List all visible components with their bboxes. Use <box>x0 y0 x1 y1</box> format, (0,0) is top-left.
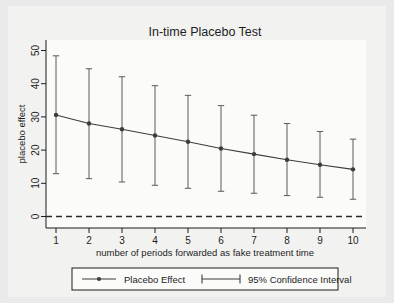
x-tick-label-5: 5 <box>185 235 191 246</box>
x-axis-ticks <box>56 228 353 233</box>
data-point-marker <box>153 133 157 137</box>
x-axis-tick-labels: 1 2 3 4 5 6 7 8 9 10 <box>53 235 359 246</box>
y-axis-tick-labels: 0 10 20 30 40 50 <box>30 45 41 220</box>
x-tick-label-3: 3 <box>119 235 125 246</box>
x-tick-label-1: 1 <box>53 235 59 246</box>
legend-label-confidence-interval: 95% Confidence Interval <box>248 274 352 285</box>
chart-screenshot: In-time Placebo Test 0 10 20 30 40 50 pl… <box>0 0 394 303</box>
y-axis-title: placebo effect <box>16 104 27 163</box>
data-point-marker <box>285 158 289 162</box>
y-tick-label-30: 30 <box>30 111 41 123</box>
data-point-marker <box>219 146 223 150</box>
x-axis-title: number of periods forwarded as fake trea… <box>96 247 314 258</box>
data-point-marker <box>54 113 58 117</box>
y-tick-label-10: 10 <box>30 177 41 189</box>
data-point-marker <box>120 127 124 131</box>
data-point-marker <box>318 163 322 167</box>
x-tick-label-6: 6 <box>218 235 224 246</box>
plot-area-background <box>46 40 366 228</box>
legend: Placebo Effect 95% Confidence Interval <box>72 268 352 290</box>
y-axis-ticks <box>41 51 46 217</box>
x-tick-label-7: 7 <box>251 235 257 246</box>
legend-dot-icon <box>97 277 101 281</box>
y-tick-label-50: 50 <box>30 45 41 57</box>
legend-label-placebo-effect: Placebo Effect <box>124 274 185 285</box>
x-tick-label-4: 4 <box>152 235 158 246</box>
x-tick-label-10: 10 <box>347 235 359 246</box>
x-tick-label-8: 8 <box>284 235 290 246</box>
y-tick-label-40: 40 <box>30 78 41 90</box>
y-tick-label-0: 0 <box>30 213 41 219</box>
x-tick-label-9: 9 <box>317 235 323 246</box>
chart-title: In-time Placebo Test <box>148 25 262 39</box>
data-point-marker <box>87 121 91 125</box>
data-point-marker <box>186 140 190 144</box>
placebo-test-chart: In-time Placebo Test 0 10 20 30 40 50 pl… <box>0 0 394 303</box>
data-point-marker <box>252 152 256 156</box>
x-tick-label-2: 2 <box>86 235 92 246</box>
data-point-marker <box>351 167 355 171</box>
y-tick-label-20: 20 <box>30 144 41 156</box>
